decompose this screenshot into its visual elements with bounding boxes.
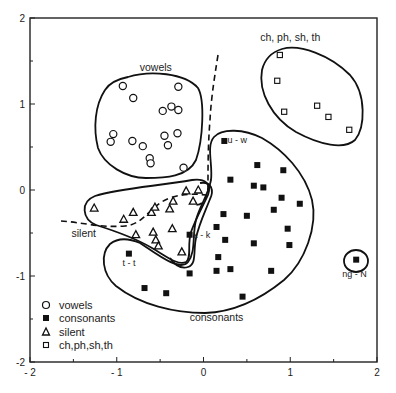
data-point	[194, 186, 202, 193]
x-tick-label: 0	[201, 367, 207, 378]
data-point	[187, 232, 193, 238]
data-point	[297, 201, 303, 207]
data-point	[164, 142, 171, 149]
filled-square-icon	[43, 315, 49, 321]
data-point	[182, 187, 190, 194]
data-point	[215, 254, 221, 260]
cluster-label: ng - N	[342, 269, 367, 279]
cluster-annotations: vowelsch, ph, sh, thsilentconsonantsu - …	[72, 31, 367, 323]
legend-label: silent	[59, 326, 85, 338]
data-point	[130, 94, 137, 101]
data-point	[251, 183, 257, 189]
silent-cluster-boundary	[85, 180, 210, 263]
data-point	[168, 103, 175, 110]
cluster-label: ch, ph, sh, th	[260, 31, 320, 43]
data-point	[169, 197, 177, 204]
cluster-label: t - t	[122, 258, 135, 268]
data-point	[214, 268, 220, 274]
data-point	[286, 242, 292, 248]
data-point	[120, 215, 128, 222]
series-consonants	[126, 138, 359, 300]
data-point	[222, 237, 228, 243]
y-tick-label: -1	[16, 271, 25, 282]
data-point	[347, 127, 352, 132]
data-point	[221, 138, 227, 144]
data-point	[147, 160, 154, 167]
legend: vowels consonants silent ch,ph,sh,th	[43, 299, 116, 351]
data-point	[166, 205, 174, 212]
y-tick-label: 1	[19, 99, 25, 110]
cluster-label: vowels	[140, 61, 172, 73]
y-tick-label: -2	[16, 357, 25, 368]
data-point	[178, 248, 186, 255]
cluster-label: u - w	[228, 135, 248, 145]
data-point	[214, 224, 220, 230]
data-point	[149, 228, 157, 235]
data-point	[251, 240, 257, 246]
data-point	[132, 231, 140, 238]
data-point	[129, 208, 137, 215]
data-point	[174, 130, 181, 137]
data-point	[110, 131, 117, 138]
data-point	[129, 137, 136, 144]
data-point	[254, 162, 260, 168]
y-tick-label: 0	[19, 185, 25, 196]
data-point	[260, 184, 266, 190]
x-tick-label: - 1	[111, 367, 123, 378]
legend-label: consonants	[59, 312, 116, 324]
data-point	[275, 78, 280, 83]
x-tick-label: - 2	[24, 367, 36, 378]
legend-item-silent: silent	[43, 326, 85, 338]
y-tick-label: 2	[19, 13, 25, 24]
series-chphshth	[275, 52, 352, 132]
open-square-icon	[44, 343, 49, 348]
legend-item-consonants: consonants	[43, 312, 116, 324]
series-vowels	[107, 82, 187, 171]
data-point	[126, 251, 132, 257]
data-point	[189, 197, 197, 204]
data-point	[175, 106, 182, 113]
data-point	[282, 109, 287, 114]
data-point	[163, 290, 169, 296]
data-point	[280, 167, 286, 173]
data-point	[240, 294, 246, 300]
x-tick-label: 1	[287, 367, 293, 378]
cluster-label: k - k	[193, 230, 210, 240]
data-point	[180, 164, 187, 171]
legend-label: ch,ph,sh,th	[59, 339, 113, 351]
open-circle-icon	[43, 302, 50, 309]
data-point	[271, 207, 277, 213]
data-point	[326, 114, 331, 119]
data-point	[139, 143, 146, 150]
data-point	[277, 52, 282, 57]
data-point	[315, 103, 320, 108]
data-point	[168, 225, 176, 232]
data-point	[285, 226, 291, 232]
data-point	[90, 204, 98, 211]
data-point	[142, 285, 148, 291]
legend-item-chphshth: ch,ph,sh,th	[44, 339, 113, 351]
scatter-plot: - 2- 1012-2-1012 vowelsch, ph, sh, thsil…	[0, 0, 396, 393]
legend-label: vowels	[59, 299, 93, 311]
open-triangle-icon	[43, 328, 50, 335]
data-point	[107, 138, 114, 145]
data-point	[244, 213, 250, 219]
cluster-label: silent	[72, 227, 97, 239]
data-point	[353, 257, 359, 263]
data-point	[175, 83, 182, 90]
data-point	[227, 266, 233, 272]
data-point	[227, 177, 233, 183]
cluster-label: consonants	[190, 311, 244, 323]
legend-item-vowels: vowels	[43, 299, 94, 311]
data-point	[220, 211, 226, 217]
x-tick-label: 2	[374, 367, 380, 378]
data-point	[161, 132, 168, 139]
data-point	[159, 107, 166, 114]
data-point	[119, 82, 126, 89]
data-point	[187, 270, 193, 276]
data-point	[268, 268, 274, 274]
data-point	[279, 195, 285, 201]
